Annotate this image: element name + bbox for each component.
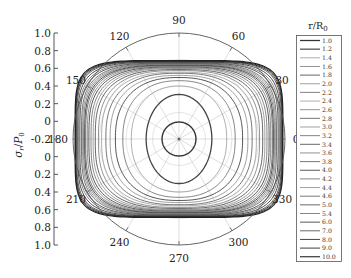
legend-label: 2.8 <box>322 115 332 122</box>
legend-label: 4.0 <box>322 166 332 173</box>
legend-label: 1.8 <box>322 71 332 78</box>
radial-tick-label: 0 <box>44 115 51 127</box>
radial-tick-label: 0.4 <box>34 80 51 92</box>
angle-label-30: 30 <box>275 74 288 86</box>
angle-label-270: 270 <box>169 252 189 264</box>
legend-title: r/R0 <box>308 20 327 33</box>
radial-axis: 1.00.80.60.40.20-0.200.20.40.60.81.0 <box>31 27 58 251</box>
legend-label: 4.2 <box>322 175 332 182</box>
legend-label: 5.4 <box>322 210 332 217</box>
legend: r/R0 1.01.21.41.61.82.02.22.42.62.83.03.… <box>297 20 342 262</box>
angle-label-90: 90 <box>172 14 185 26</box>
center-point <box>178 138 181 141</box>
angle-tick <box>230 227 232 230</box>
legend-label: 4.6 <box>322 192 332 199</box>
angle-label-210: 210 <box>66 193 86 205</box>
legend-label: 4.4 <box>322 184 332 191</box>
legend-label: 2.0 <box>322 80 332 87</box>
legend-label: 3.6 <box>322 149 332 156</box>
legend-label: 2.6 <box>322 106 332 113</box>
radial-tick-label: -0.2 <box>31 133 51 145</box>
angle-label-240: 240 <box>109 236 129 248</box>
radial-tick-label: 0.8 <box>34 45 51 57</box>
radial-tick-label: 1.0 <box>34 27 51 39</box>
radial-tick-label: 0.2 <box>34 168 51 180</box>
angle-tick <box>126 47 128 50</box>
radial-tick-label: 1.0 <box>34 239 51 251</box>
legend-label: 1.4 <box>322 54 332 61</box>
polar-chart: 0306090120150180210240270300330 1.00.80.… <box>0 0 351 278</box>
angle-tick <box>126 227 128 230</box>
angle-label-300: 300 <box>228 236 248 248</box>
angle-label-150: 150 <box>66 74 86 86</box>
legend-label: 3.2 <box>322 132 332 139</box>
legend-label: 1.2 <box>322 45 332 52</box>
legend-label: 3.4 <box>322 141 332 148</box>
radial-tick-label: 0.2 <box>34 98 51 110</box>
legend-label: 7.0 <box>322 227 332 234</box>
legend-label: 3.0 <box>322 123 332 130</box>
legend-label: 10.0 <box>322 253 336 260</box>
angle-label-60: 60 <box>232 30 245 42</box>
legend-label: 3.8 <box>322 158 332 165</box>
radial-tick-label: 0 <box>44 151 51 163</box>
legend-box <box>297 36 342 262</box>
y-axis-label: σr/P0 <box>12 132 26 158</box>
legend-label: 8.0 <box>322 236 332 243</box>
legend-label: 1.6 <box>322 63 332 70</box>
angle-label-120: 120 <box>109 30 129 42</box>
radial-tick-label: 0.6 <box>34 204 51 216</box>
legend-label: 2.4 <box>322 97 332 104</box>
legend-label: 6.0 <box>322 218 332 225</box>
legend-label: 5.0 <box>322 201 332 208</box>
angle-tick <box>230 47 232 50</box>
radial-tick-label: 0.6 <box>34 62 51 74</box>
radial-tick-label: 0.8 <box>34 221 51 233</box>
angle-label-330: 330 <box>272 193 292 205</box>
legend-label: 9.0 <box>322 244 332 251</box>
radial-tick-label: 0.4 <box>34 186 51 198</box>
legend-label: 2.2 <box>322 89 332 96</box>
legend-label: 1.0 <box>322 37 332 44</box>
